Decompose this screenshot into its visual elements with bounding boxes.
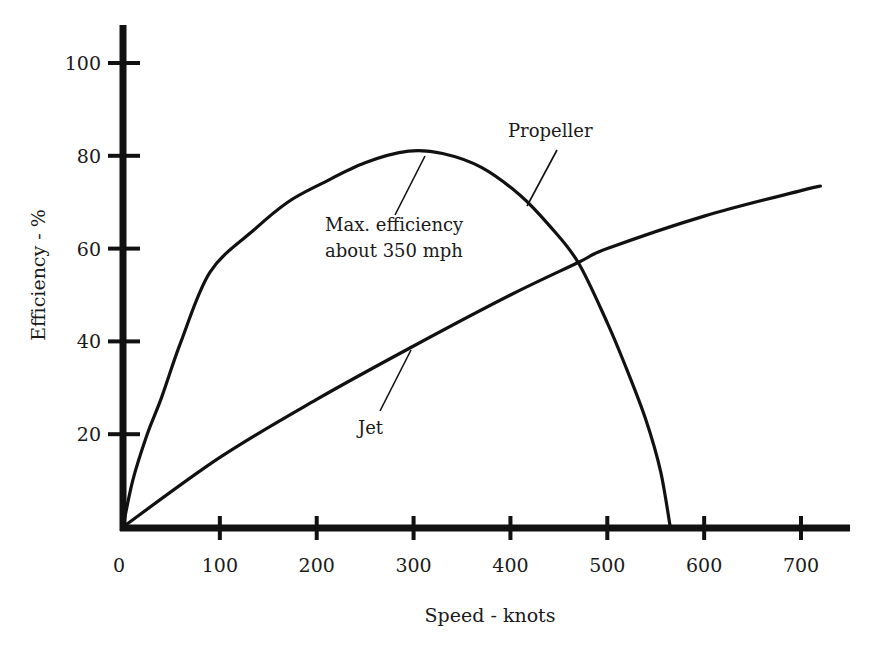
x-tick-label: 600	[686, 554, 722, 576]
axes	[120, 25, 850, 531]
x-tick-label: 100	[202, 554, 238, 576]
series-group	[123, 150, 820, 527]
x-axis-title: Speed - knots	[425, 604, 556, 626]
x-tick-label: 300	[395, 554, 431, 576]
x-tick-label: 500	[589, 554, 625, 576]
y-tick-label: 60	[77, 238, 101, 260]
max-efficiency-leader-line	[395, 156, 425, 215]
y-axis-title: Efficiency - %	[27, 209, 49, 341]
jet-label: Jet	[356, 417, 384, 438]
x-tick-label: 0	[113, 554, 125, 576]
propeller-curve	[123, 150, 670, 527]
y-tick-label: 100	[65, 52, 101, 74]
x-tick-label: 700	[783, 554, 819, 576]
propeller-leader-line	[527, 150, 557, 206]
y-tick-label: 20	[77, 423, 101, 445]
max-efficiency-label-line2: about 350 mph	[325, 240, 463, 261]
jet-leader-line	[380, 350, 411, 411]
y-tick-label: 80	[77, 145, 101, 167]
jet-curve	[123, 186, 820, 527]
propeller-label: Propeller	[508, 120, 593, 141]
x-tick-label: 200	[299, 554, 335, 576]
ticks: 010020030040050060070020406080100	[65, 52, 819, 576]
annotation-leaders	[380, 150, 557, 411]
efficiency-chart: 010020030040050060070020406080100 Speed …	[0, 0, 875, 656]
y-tick-label: 40	[77, 330, 101, 352]
x-tick-label: 400	[492, 554, 528, 576]
max-efficiency-label-line1: Max. efficiency	[325, 214, 464, 235]
